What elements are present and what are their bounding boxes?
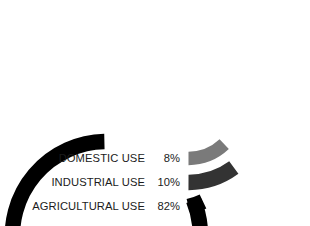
legend-label-domestic: DOMESTIC USE — [59, 151, 145, 165]
legend-row-domestic: DOMESTIC USE 8% — [0, 151, 310, 165]
legend-value-agricultural: 82% — [146, 199, 180, 213]
legend-row-industrial: INDUSTRIAL USE 10% — [0, 175, 310, 189]
legend-label-agricultural: AGRICULTURAL USE — [32, 199, 145, 213]
legend-label-industrial: INDUSTRIAL USE — [51, 175, 145, 189]
legend: DOMESTIC USE 8% INDUSTRIAL USE 10% AGRIC… — [0, 0, 310, 226]
water-use-donut-chart: DOMESTIC USE 8% INDUSTRIAL USE 10% AGRIC… — [0, 0, 310, 226]
legend-value-domestic: 8% — [146, 151, 180, 165]
legend-value-industrial: 10% — [146, 175, 180, 189]
legend-row-agricultural: AGRICULTURAL USE 82% — [0, 199, 310, 213]
